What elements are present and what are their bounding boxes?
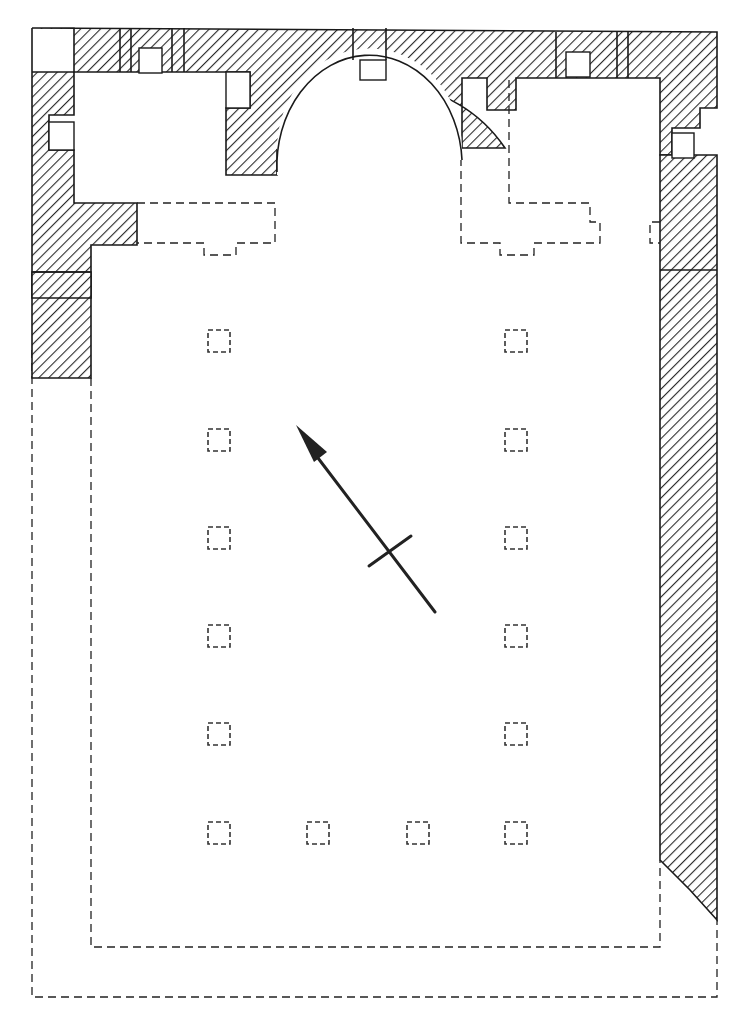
column-base [505, 429, 527, 451]
column-base [505, 723, 527, 745]
column-base [307, 822, 329, 844]
column-base [208, 330, 230, 352]
column-base [407, 822, 429, 844]
column-base [505, 625, 527, 647]
top-wall [32, 28, 717, 175]
column-base [208, 527, 230, 549]
left-chamber-annex [137, 203, 275, 255]
column-base [505, 330, 527, 352]
column-base [208, 625, 230, 647]
column-bases [208, 330, 527, 844]
column-base [208, 822, 230, 844]
north-arrow-icon [296, 425, 435, 612]
column-base [208, 723, 230, 745]
column-base [505, 527, 527, 549]
left-wall [32, 28, 137, 378]
right-wall [660, 155, 717, 920]
outer-foundation-outline [32, 350, 717, 997]
nave-outline [91, 378, 660, 947]
column-base [505, 822, 527, 844]
floor-plan [0, 0, 751, 1020]
column-base [208, 429, 230, 451]
